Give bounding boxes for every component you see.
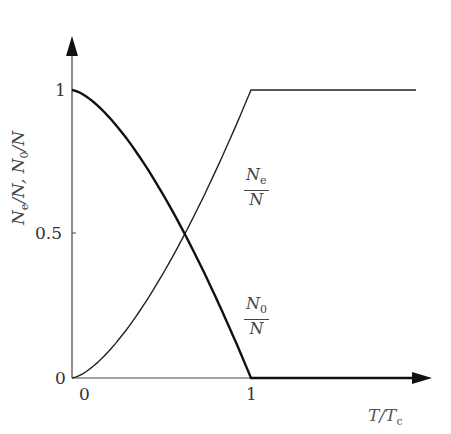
- n0-annotation: N0 N: [244, 295, 269, 338]
- x-axis-arrow-icon: [412, 372, 432, 384]
- chart-canvas: [0, 0, 451, 434]
- y-tick-1: 1: [55, 80, 66, 100]
- y-axis-label: Ne/N, N0/N: [8, 131, 31, 225]
- y-axis-arrow-icon: [66, 36, 78, 56]
- x-tick-0: 0: [79, 384, 90, 404]
- y-tick-0-5: 0.5: [35, 223, 62, 243]
- y-tick-0: 0: [55, 368, 66, 388]
- x-axis-label: T/Tc: [368, 405, 403, 428]
- x-tick-1: 1: [246, 384, 257, 404]
- ne-annotation: Ne N: [244, 166, 269, 209]
